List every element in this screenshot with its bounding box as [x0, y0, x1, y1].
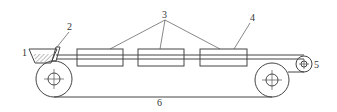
leader-lines [57, 20, 250, 49]
processing-unit-1 [77, 49, 123, 66]
tension-roller [296, 56, 312, 72]
processing-unit-3 [200, 49, 247, 66]
label-4: 4 [250, 12, 255, 23]
left-drive-roller [36, 61, 72, 97]
label-1: 1 [22, 47, 27, 58]
processing-units [77, 49, 247, 66]
processing-unit-2 [138, 49, 184, 66]
label-5: 5 [314, 59, 319, 70]
label-3: 3 [162, 9, 167, 20]
conveyor-diagram: 1 2 3 4 5 6 [0, 0, 337, 112]
label-6: 6 [157, 97, 162, 108]
label-2: 2 [67, 21, 72, 32]
right-drive-roller [255, 63, 289, 97]
